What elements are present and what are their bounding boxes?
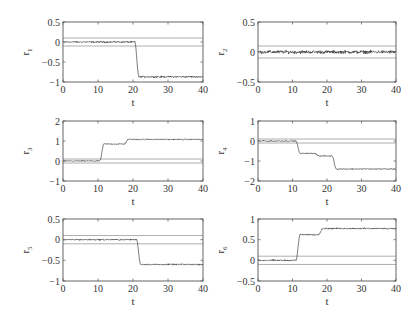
subplot-r6: 010203040−0.500.51tr6 [214,214,401,308]
y-tick-label: 0 [250,255,255,266]
series-line-r5 [63,239,203,265]
x-tick-label: 20 [128,283,138,294]
x-tick-label: 10 [288,283,298,294]
y-tick-label: 0.5 [48,214,61,225]
x-tick-label: 10 [93,183,103,194]
x-tick-label: 40 [391,84,401,95]
series-line-r3 [63,139,203,162]
y-tick-label: 0.5 [243,17,256,28]
x-axis-label: t [131,96,134,108]
x-tick-label: 20 [322,183,332,194]
x-tick-label: 30 [357,183,367,194]
subplot-r4: 010203040−2−101tr4 [214,116,401,208]
x-tick-label: 0 [61,183,66,194]
axes-box [258,121,396,181]
y-tick-label: −0.5 [42,57,60,68]
y-axis-label: r3 [19,147,34,155]
x-tick-label: 0 [61,84,66,95]
x-tick-label: 0 [256,84,261,95]
x-axis-label: t [325,295,328,307]
y-tick-label: −0.5 [42,255,60,266]
y-tick-label: 0 [55,156,60,167]
subplot-r3: 010203040−1012tr3 [19,116,208,208]
x-tick-label: 0 [256,283,261,294]
x-tick-label: 30 [163,84,173,95]
x-tick-label: 30 [163,183,173,194]
series-line-r2 [258,50,396,54]
y-tick-label: −1 [244,156,255,167]
x-tick-label: 40 [391,283,401,294]
y-axis-label-subscript: 1 [26,48,34,52]
y-tick-label: 0 [250,136,255,147]
x-axis-label: t [131,295,134,307]
x-tick-label: 10 [93,283,103,294]
y-tick-label: −1 [49,77,60,88]
y-axis-label: r4 [214,147,229,155]
x-axis-label: t [325,96,328,108]
y-axis-label-subscript: 4 [221,147,229,151]
axes-box [63,219,203,281]
subplot-r2: 010203040−0.500.5tr2 [214,17,401,109]
y-tick-label: 1 [55,136,60,147]
y-tick-label: 0 [250,47,255,58]
x-tick-label: 0 [256,183,261,194]
y-axis-label-subscript: 2 [221,48,229,52]
residual-figure: 010203040−1−0.500.5tr1010203040−0.500.5t… [0,0,419,320]
subplot-r1: 010203040−1−0.500.5tr1 [19,17,208,109]
y-axis-label: r1 [19,48,34,56]
x-tick-label: 40 [198,283,208,294]
y-tick-label: 0 [55,37,60,48]
x-tick-label: 0 [61,283,66,294]
y-axis-label-subscript: 5 [26,246,34,250]
y-tick-label: 2 [55,116,60,127]
y-axis-label: r5 [19,246,34,254]
x-tick-label: 20 [128,84,138,95]
y-tick-label: 0.5 [48,17,61,28]
x-tick-label: 30 [163,283,173,294]
y-tick-label: −1 [49,276,60,287]
y-tick-label: 1 [250,116,255,127]
subplot-r5: 010203040−1−0.500.5tr5 [19,214,208,308]
y-tick-label: −0.5 [237,77,255,88]
y-tick-label: −1 [49,176,60,187]
y-axis-label-subscript: 3 [26,147,34,151]
axes-box [63,121,203,181]
x-axis-label: t [325,195,328,207]
y-axis-label-subscript: 6 [221,246,229,250]
x-tick-label: 40 [391,183,401,194]
x-tick-label: 30 [357,283,367,294]
x-tick-label: 10 [93,84,103,95]
y-axis-label: r2 [214,48,229,56]
x-tick-label: 10 [288,183,298,194]
x-tick-label: 40 [198,84,208,95]
y-axis-label: r6 [214,246,229,254]
y-tick-label: −0.5 [237,276,255,287]
x-tick-label: 30 [357,84,367,95]
series-line-r1 [63,41,203,78]
y-tick-label: 1 [250,214,255,225]
x-axis-label: t [131,195,134,207]
y-tick-label: 0 [55,234,60,245]
x-tick-label: 20 [322,84,332,95]
x-tick-label: 40 [198,183,208,194]
series-line-r4 [258,140,396,169]
x-tick-label: 20 [322,283,332,294]
axes-box [63,22,203,82]
y-tick-label: 0.5 [243,234,256,245]
y-tick-label: −2 [244,176,255,187]
x-tick-label: 20 [128,183,138,194]
x-tick-label: 10 [288,84,298,95]
